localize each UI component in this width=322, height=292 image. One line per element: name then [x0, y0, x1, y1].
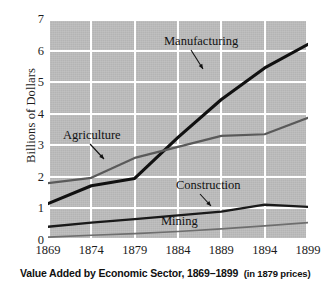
y-tick-label-4: 4: [22, 108, 44, 120]
annotation-manufacturing: Manufacturing: [164, 35, 238, 48]
x-tick-label-1899: 1899: [285, 243, 322, 258]
x-tick-label-1889: 1889: [198, 243, 244, 258]
y-tick-label-6: 6: [22, 45, 44, 57]
x-tick-label-1884: 1884: [155, 243, 201, 258]
y-tick-label-2: 2: [22, 171, 44, 183]
annotation-construction: Construction: [176, 179, 241, 192]
caption-main-text: Value Added by Economic Sector, 1869–189…: [20, 267, 238, 279]
annotation-agriculture: Agriculture: [63, 129, 121, 142]
caption-note-text: (in 1879 prices): [244, 268, 311, 279]
x-tick-label-1894: 1894: [242, 243, 288, 258]
x-tick-label-1869: 1869: [25, 243, 71, 258]
y-tick-label-7: 7: [22, 13, 44, 25]
y-tick-label-1: 1: [22, 202, 44, 214]
annotation-mining: Mining: [161, 215, 198, 228]
x-tick-label-1879: 1879: [112, 243, 158, 258]
x-tick-label-1874: 1874: [68, 243, 114, 258]
y-tick-label-5: 5: [22, 76, 44, 88]
leader-arrow-manufacturing: [191, 50, 203, 69]
figure-caption: Value Added by Economic Sector, 1869–189…: [20, 267, 312, 280]
leader-arrow-construction: [200, 194, 211, 206]
y-tick-label-3: 3: [22, 139, 44, 151]
plot-area: Manufacturing Agriculture Construction M…: [48, 19, 308, 240]
chart-figure: Billions of Dollars 01234567 Manufacturi…: [0, 0, 322, 292]
leader-arrow-agriculture: [90, 144, 104, 159]
x-axis-tick-labels: 1869187418791884188918941899: [48, 243, 308, 261]
